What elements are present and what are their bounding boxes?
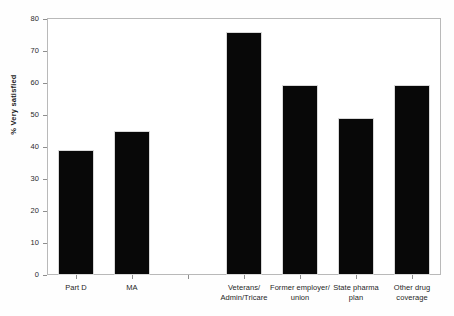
bar (226, 32, 262, 275)
bar-slot (338, 19, 374, 275)
x-tick-mark (300, 275, 301, 279)
bar-slot (282, 19, 318, 275)
x-tick-label: MA (98, 283, 166, 293)
bar-slot (58, 19, 94, 275)
bar (338, 118, 374, 275)
bar-slot (394, 19, 430, 275)
x-tick-mark (244, 275, 245, 279)
bar (58, 150, 94, 275)
y-tick-label: 30 (30, 174, 39, 184)
y-tick-label: 40 (30, 142, 39, 152)
y-tick-label: 80 (30, 14, 39, 24)
y-tick-label: 20 (30, 206, 39, 216)
y-tick-mark (43, 275, 47, 276)
bar (114, 131, 150, 275)
y-tick-label: 0 (35, 270, 39, 280)
bar-chart-figure: % Very satisfied 01020304050607080 Part … (0, 0, 454, 316)
y-tick-label: 60 (30, 78, 39, 88)
y-tick-label: 10 (30, 238, 39, 248)
bar (394, 85, 430, 275)
x-axis: Part DMAVeterans/ Admin/TricareFormer em… (48, 275, 440, 316)
y-axis: % Very satisfied 01020304050607080 (0, 0, 48, 276)
bar (282, 85, 318, 275)
x-tick-label: Other drug coverage (378, 283, 446, 302)
y-tick-label: 70 (30, 46, 39, 56)
bar-slot (226, 19, 262, 275)
y-tick-label: 50 (30, 110, 39, 120)
y-axis-title: % Very satisfied (9, 45, 18, 165)
x-tick-mark (356, 275, 357, 279)
x-tick-mark (412, 275, 413, 279)
bar-slot (114, 19, 150, 275)
x-tick-mark (132, 275, 133, 279)
x-tick-mark (188, 275, 189, 279)
bars-container (48, 19, 440, 275)
x-tick-mark (76, 275, 77, 279)
